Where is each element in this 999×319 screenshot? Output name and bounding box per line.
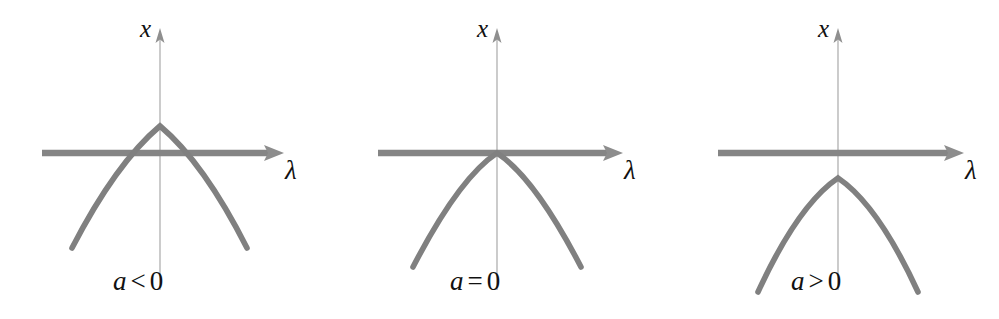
lambda-axis-label: λ bbox=[285, 157, 297, 184]
case-value: 0 bbox=[150, 266, 165, 296]
case-value: 0 bbox=[828, 266, 843, 296]
x-axis-label: x bbox=[818, 16, 829, 41]
case-variable: a bbox=[450, 266, 465, 296]
figure-root: x λ a<0 x λ a=0 bbox=[0, 0, 999, 319]
lambda-axis-label: λ bbox=[965, 157, 977, 184]
case-label-a-zero: a=0 bbox=[450, 268, 501, 295]
x-axis-label: x bbox=[140, 16, 151, 41]
x-axis-line bbox=[156, 28, 165, 290]
lambda-axis-label: λ bbox=[624, 157, 636, 184]
case-operator: > bbox=[809, 266, 825, 296]
x-axis-line bbox=[493, 28, 502, 290]
case-label-a-positive: a>0 bbox=[791, 268, 842, 295]
panel-a-positive: x λ a>0 bbox=[666, 0, 999, 319]
panel-a-negative: x λ a<0 bbox=[0, 0, 333, 319]
case-variable: a bbox=[113, 266, 128, 296]
lambda-axis-line bbox=[42, 145, 284, 161]
case-operator: = bbox=[468, 266, 484, 296]
case-variable: a bbox=[791, 266, 806, 296]
case-operator: < bbox=[131, 266, 147, 296]
x-axis-label: x bbox=[477, 16, 488, 41]
panel-a-zero: x λ a=0 bbox=[333, 0, 666, 319]
x-axis-line bbox=[834, 28, 843, 290]
case-label-a-negative: a<0 bbox=[113, 268, 164, 295]
case-value: 0 bbox=[487, 266, 502, 296]
lambda-axis-line bbox=[718, 145, 964, 161]
